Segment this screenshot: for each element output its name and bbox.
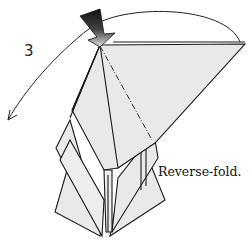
step-number: 3 — [24, 42, 34, 60]
origami-diagram — [0, 0, 252, 242]
top-triangle — [100, 44, 245, 168]
push-arrow-icon — [80, 9, 115, 47]
instruction-caption: Reverse-fold. — [158, 164, 241, 179]
